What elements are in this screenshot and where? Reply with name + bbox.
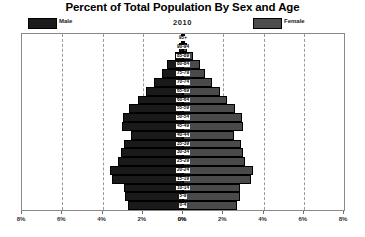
x-tick-label-right-4: 8% [339,216,348,222]
bar-male-85-89 [175,52,183,61]
x-tick-left-0 [21,211,22,214]
bar-male-15-19 [112,175,183,184]
bar-row: 85-89 [22,52,344,61]
x-tick-right-2 [263,211,264,214]
bar-row: 0-4 [22,201,344,210]
bar-cell-female [183,96,344,105]
x-tick-label-right-0: 0% [178,216,187,222]
bar-female-35-39 [183,140,241,149]
x-tick-left-2 [102,211,103,214]
bar-row: 10-14 [22,184,344,193]
bar-male-40-44 [131,131,183,140]
bar-cell-male [22,140,183,149]
bar-cell-female [183,52,344,61]
bar-row: 95+ [22,34,344,43]
bar-female-60-64 [183,96,227,105]
bar-cell-male [22,96,183,105]
bar-female-45-49 [183,122,243,131]
bar-row: 80-84 [22,60,344,69]
bar-cell-male [22,60,183,69]
bar-male-20-24 [110,166,183,175]
bar-cell-female [183,201,344,210]
bar-row: 5-9 [22,192,344,201]
bar-cell-female [183,184,344,193]
bar-male-70-74 [154,78,183,87]
bar-cell-female [183,87,344,96]
bar-row: 30-34 [22,148,344,157]
bar-cell-female [183,131,344,140]
bar-row: 35-39 [22,140,344,149]
bar-male-60-64 [138,96,183,105]
bar-cell-female [183,175,344,184]
bar-male-75-79 [162,69,183,78]
x-tick-left-1 [61,211,62,214]
bar-cell-female [183,34,344,43]
bar-male-80-84 [167,60,183,69]
bar-female-25-29 [183,157,245,166]
bar-cell-male [22,148,183,157]
bar-cell-male [22,131,183,140]
bar-cell-male [22,43,183,52]
bar-row: 15-19 [22,175,344,184]
bar-cell-female [183,166,344,175]
bar-rows: 95+90-9485-8980-8475-7970-7465-6960-6455… [22,34,344,210]
bar-cell-female [183,192,344,201]
chart-root: Percent of Total Population By Sex and A… [0,0,365,237]
bar-female-50-54 [183,113,242,122]
bar-cell-female [183,78,344,87]
bar-female-15-19 [183,175,251,184]
bar-row: 60-64 [22,96,344,105]
bar-cell-male [22,157,183,166]
bar-female-85-89 [183,52,193,61]
bar-row: 65-69 [22,87,344,96]
bar-female-95+ [183,34,185,43]
bar-row: 25-29 [22,157,344,166]
chart-title: Percent of Total Population By Sex and A… [0,1,365,13]
bar-cell-female [183,104,344,113]
bar-row: 55-59 [22,104,344,113]
bar-cell-male [22,184,183,193]
bar-row: 90-94 [22,43,344,52]
x-tick-right-4 [343,211,344,214]
bar-male-25-29 [118,157,183,166]
bar-cell-female [183,122,344,131]
bar-female-75-79 [183,69,205,78]
x-tick-left-3 [142,211,143,214]
bar-row: 40-44 [22,131,344,140]
x-tick-label-left-1: 6% [57,216,66,222]
bar-cell-male [22,78,183,87]
bar-male-65-69 [146,87,183,96]
bar-female-55-59 [183,104,235,113]
bar-female-0-4 [183,201,237,210]
bar-cell-male [22,87,183,96]
x-axis: 8%6%4%2%0%0%2%4%6%8% [21,211,345,233]
bar-cell-male [22,201,183,210]
bar-cell-female [183,69,344,78]
x-tick-right-1 [222,211,223,214]
bar-female-40-44 [183,131,234,140]
bar-female-30-34 [183,148,243,157]
bar-female-10-14 [183,184,240,193]
bar-male-50-54 [123,113,183,122]
bar-male-45-49 [122,122,183,131]
chart-subtitle-year: 2010 [0,18,365,27]
bar-male-30-34 [121,148,183,157]
bar-female-65-69 [183,87,220,96]
bar-cell-male [22,104,183,113]
bar-male-35-39 [124,140,183,149]
x-tick-right-0 [182,211,183,214]
bar-cell-female [183,113,344,122]
x-tick-label-right-2: 4% [258,216,267,222]
bar-female-70-74 [183,78,212,87]
bar-cell-female [183,140,344,149]
bar-row: 20-24 [22,166,344,175]
bar-male-10-14 [124,184,183,193]
bar-row: 70-74 [22,78,344,87]
bar-female-20-24 [183,166,253,175]
bar-female-90-94 [183,43,187,52]
plot-area: 95+90-9485-8980-8475-7970-7465-6960-6455… [21,33,345,211]
bar-cell-female [183,43,344,52]
x-tick-label-left-2: 4% [97,216,106,222]
x-tick-label-right-1: 2% [218,216,227,222]
bar-male-0-4 [128,201,183,210]
